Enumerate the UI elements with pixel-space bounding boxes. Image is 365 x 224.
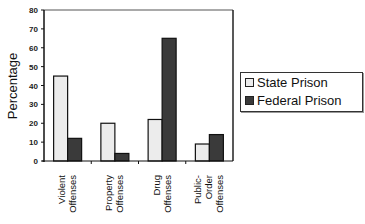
bar-state: [148, 119, 162, 161]
x-tick-label: Offenses: [67, 175, 78, 213]
y-axis-label: Percentage: [5, 53, 20, 120]
legend-item-state: State Prison: [241, 74, 362, 91]
y-tick-label: 50: [29, 63, 38, 72]
legend-label-state: State Prison: [257, 75, 328, 90]
bar-state: [101, 123, 115, 161]
legend: State Prison Federal Prison: [240, 72, 363, 112]
y-tick-label: 60: [29, 44, 38, 53]
x-tick-label: Property: [103, 175, 114, 211]
bar-state: [195, 144, 209, 161]
y-tick-label: 30: [29, 100, 38, 109]
y-tick-label: 80: [29, 6, 38, 15]
x-tick-label: Public-: [192, 175, 203, 204]
bar-federal: [68, 138, 82, 161]
bars: [54, 38, 224, 161]
y-tick-label: 0: [34, 157, 39, 166]
bar-federal: [209, 135, 223, 161]
x-tick-label: Offenses: [114, 175, 125, 213]
legend-swatch-federal: [245, 96, 254, 105]
x-tick-label: Violent: [56, 175, 67, 204]
bar-chart: 01020304050607080 ViolentOffensesPropert…: [0, 0, 365, 224]
y-tick-label: 40: [29, 82, 38, 91]
x-tick-label: Order: [203, 175, 214, 199]
y-axis: 01020304050607080: [29, 6, 44, 166]
y-tick-label: 10: [29, 138, 38, 147]
legend-item-federal: Federal Prison: [241, 92, 362, 109]
legend-swatch-state: [245, 78, 254, 87]
x-axis: ViolentOffensesPropertyOffensesDrugOffen…: [42, 161, 233, 213]
x-tick-label: Offenses: [214, 175, 225, 213]
bar-state: [54, 76, 68, 161]
y-tick-label: 70: [29, 25, 38, 34]
legend-label-federal: Federal Prison: [257, 93, 342, 108]
bar-federal: [115, 153, 129, 161]
bar-federal: [162, 38, 176, 161]
x-tick-label: Drug: [151, 175, 162, 196]
x-tick-label: Offenses: [162, 175, 173, 213]
y-tick-label: 20: [29, 119, 38, 128]
